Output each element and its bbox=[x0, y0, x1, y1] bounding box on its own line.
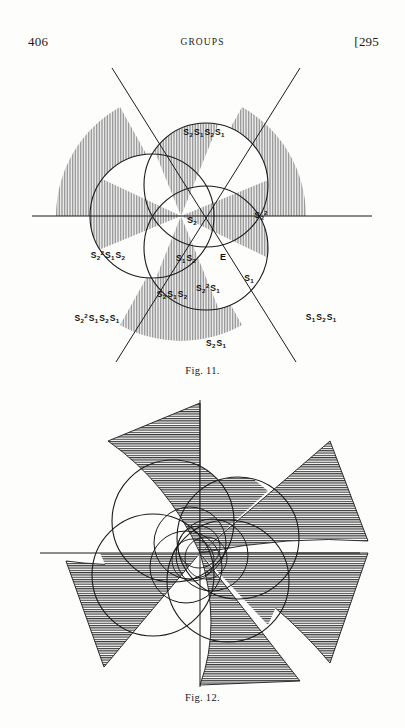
folio-right: [295 bbox=[354, 34, 379, 50]
figure-11: S2S1S2S1 S2 S22 E S1 S1S2 S22S1S2 S2S1S2… bbox=[0, 52, 405, 387]
label-s1: S1 bbox=[244, 274, 254, 283]
label-s2s1s2s1: S2S1S2S1 bbox=[183, 128, 224, 137]
running-head: 406 GROUPS [295 bbox=[0, 34, 405, 52]
label-s2sq-s1s2: S22S1S2 bbox=[91, 251, 125, 260]
figure-12-caption: Fig. 12. bbox=[0, 692, 405, 703]
label-s2sq-s1s2s1: S22S1S2S1 bbox=[75, 314, 120, 323]
label-s2: S2 bbox=[187, 216, 197, 225]
label-s2s1s2: S2S1S2 bbox=[157, 290, 188, 299]
label-s1s2: S1S2 bbox=[176, 254, 196, 263]
figure-12: Fig. 12. bbox=[0, 395, 405, 715]
label-e: E bbox=[220, 253, 226, 262]
figure-11-caption: Fig. 11. bbox=[0, 365, 405, 376]
figure-11-diagram bbox=[0, 52, 405, 362]
label-s2s1: S2S1 bbox=[206, 339, 226, 348]
figure-12-diagram bbox=[0, 395, 405, 690]
label-s2-squared: S22 bbox=[254, 211, 267, 220]
page: 406 GROUPS [295 bbox=[0, 0, 405, 728]
label-s1s2s1: S1S2S1 bbox=[306, 313, 337, 322]
running-title: GROUPS bbox=[0, 37, 405, 47]
label-s2sq-s1: S22S1 bbox=[196, 284, 220, 293]
